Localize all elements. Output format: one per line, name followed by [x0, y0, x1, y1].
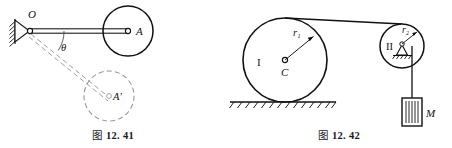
block-M: [402, 98, 422, 126]
label-radius-r2: r₂: [402, 25, 410, 35]
disc-A-center-icon: [125, 28, 130, 33]
caption-number: 12. 41: [106, 130, 134, 141]
figure-12-41: O A A' θ 图 12. 41: [0, 0, 226, 148]
figure-12-42-caption: 图 12. 42: [226, 127, 452, 142]
label-pulley-II: II: [386, 41, 393, 52]
rod-OA-prime-ghost: [29, 34, 110, 101]
rod-OA: [30, 29, 128, 33]
figure-12-42: I C r₁ II r₂ M 图 12. 42: [226, 0, 452, 148]
caption-number: 12. 42: [332, 130, 360, 141]
caption-prefix: 图: [318, 129, 328, 141]
figure-12-41-drawing: O A A' θ: [0, 0, 226, 125]
label-disc-A-prime: A': [112, 91, 122, 102]
label-cylinder-I: I: [257, 56, 261, 68]
disc-A-prime-center-icon: [107, 94, 112, 99]
ground-surface: [230, 102, 337, 108]
label-radius-r1: r₁: [293, 27, 301, 38]
label-block-M: M: [425, 107, 436, 119]
figure-12-41-caption: 图 12. 41: [0, 127, 226, 142]
figure-12-42-drawing: I C r₁ II r₂ M: [226, 0, 452, 125]
label-angle-theta: θ: [61, 42, 66, 53]
pivot-support: [10, 19, 30, 47]
label-pivot-O: O: [28, 8, 36, 20]
label-disc-A: A: [135, 25, 143, 37]
caption-prefix: 图: [92, 129, 102, 141]
pivot-hinge-icon: [27, 28, 32, 33]
figure-sheet: O A A' θ 图 12. 41: [0, 0, 452, 148]
label-cylinder-center-C: C: [281, 66, 289, 78]
